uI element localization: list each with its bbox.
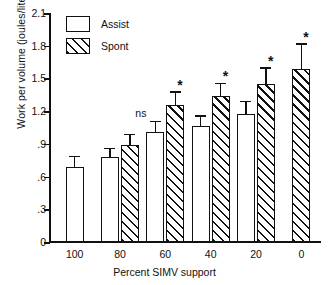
error-bar (74, 157, 75, 167)
y-tick-label: 2.1 (20, 8, 46, 18)
error-bar (175, 93, 176, 105)
legend-item-assist: Assist (66, 14, 129, 33)
y-tick-label: 1.5 (20, 73, 46, 83)
legend-item-spont: Spont (66, 36, 129, 55)
bar-spont-60 (166, 105, 184, 242)
bar-assist-60 (146, 132, 164, 242)
x-tick-label: 80 (100, 248, 140, 260)
bar-spont-40 (212, 96, 230, 242)
bar-assist-100 (66, 167, 84, 242)
error-bar (265, 69, 266, 84)
chart-figure: Work per volume (joules/liter) 0.3.6.91.… (0, 0, 329, 285)
bar-spont-80 (121, 145, 139, 242)
legend-swatch-assist (66, 16, 90, 32)
error-bar-cap (124, 134, 135, 135)
x-tick-label: 20 (236, 248, 276, 260)
error-bar-cap (150, 121, 161, 122)
y-tick-label: 0 (20, 237, 46, 247)
bar-group: * (185, 13, 230, 242)
error-bar (245, 102, 246, 114)
bar-spont-0 (292, 69, 310, 242)
legend-label-assist: Assist (101, 18, 129, 30)
x-tick-label: 0 (281, 248, 321, 260)
x-tick-label: 100 (55, 248, 95, 260)
error-bar (200, 117, 201, 127)
error-bar (301, 45, 302, 69)
error-bar (220, 84, 221, 96)
annotation-significant: * (303, 32, 308, 42)
error-bar (109, 149, 110, 157)
legend-label-spont: Spont (101, 40, 128, 52)
annotation-significant: * (268, 56, 273, 66)
y-tick-label: 1.8 (20, 41, 46, 51)
chart-legend: Assist Spont (66, 14, 129, 58)
x-tick-label: 40 (191, 248, 231, 260)
annotation-significant: * (223, 71, 228, 81)
bar-spont-20 (257, 84, 275, 242)
error-bar-cap (104, 148, 115, 149)
bar-group: * (276, 13, 321, 242)
bar-group: * (230, 13, 275, 242)
bar-assist-20 (237, 114, 255, 242)
error-bar (155, 122, 156, 132)
error-bar-cap (195, 115, 206, 116)
bar-group: ns* (140, 13, 185, 242)
legend-swatch-spont (66, 38, 90, 54)
bar-assist-80 (101, 157, 119, 242)
error-bar (129, 135, 130, 145)
y-axis-tick-labels: 0.3.6.91.21.51.82.1 (20, 0, 46, 285)
error-bar-cap (240, 101, 251, 102)
y-tick-label: .3 (20, 204, 46, 214)
annotation-significant: * (177, 80, 182, 90)
annotation-ns: ns (135, 108, 146, 118)
y-tick-label: 1.2 (20, 106, 46, 116)
y-tick-mark (44, 242, 50, 244)
x-axis-title: Percent SIMV support (0, 266, 329, 278)
y-tick-label: .9 (20, 139, 46, 149)
error-bar-cap (69, 156, 80, 157)
bar-assist-40 (192, 126, 210, 242)
y-tick-label: .6 (20, 172, 46, 182)
x-tick-label: 60 (145, 248, 185, 260)
